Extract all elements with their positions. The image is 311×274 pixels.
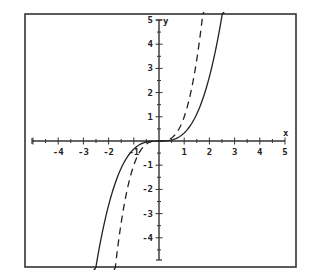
- x-tick-label: -4: [53, 147, 64, 157]
- x-tick-label: -3: [78, 147, 89, 157]
- y-tick-label: 4: [148, 39, 154, 49]
- x-tick-label: 3: [232, 147, 237, 157]
- y-tick-label: 1: [148, 112, 153, 122]
- y-tick-label: 5: [148, 15, 153, 25]
- x-axis-label: x: [283, 128, 289, 138]
- x-tick-label: 2: [207, 147, 212, 157]
- y-tick-label: 3: [148, 63, 153, 73]
- x-tick-label: 1: [181, 147, 186, 157]
- y-tick-label: -3: [142, 209, 153, 219]
- x-tick-label: 4: [257, 147, 263, 157]
- x-tick-label: -2: [103, 147, 114, 157]
- y-tick-label: -1: [142, 160, 153, 170]
- x-tick-label: 5: [282, 147, 287, 157]
- y-tick-label: 2: [148, 88, 153, 98]
- y-axis-label: y: [163, 16, 169, 26]
- y-tick-label: -4: [142, 233, 153, 243]
- cubic-function-plot: -4-3-2-112345-4-3-2-112345 x y: [0, 0, 311, 274]
- y-tick-label: -2: [142, 184, 153, 194]
